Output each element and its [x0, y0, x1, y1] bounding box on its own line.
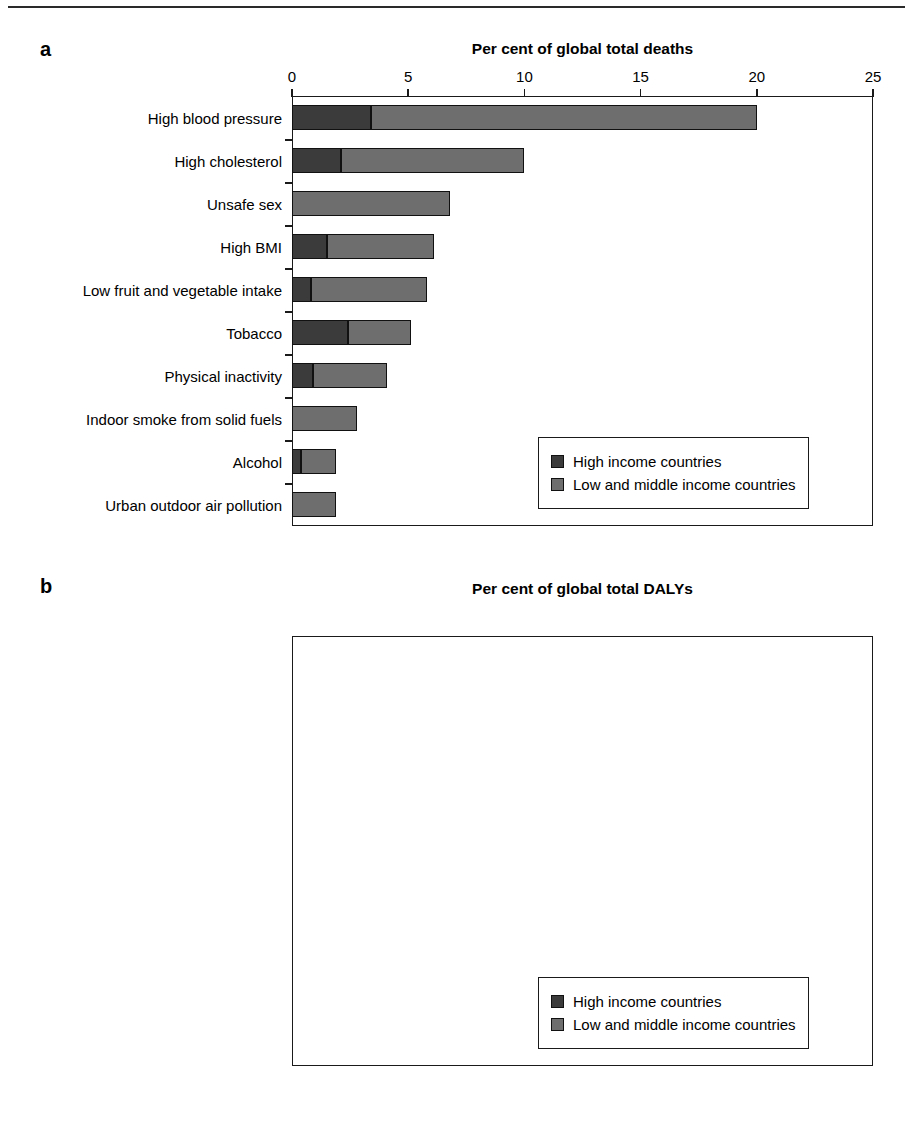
bar-segment	[292, 148, 341, 173]
panel-a-title: Per cent of global total deaths	[292, 40, 873, 58]
y-tick-mark	[285, 311, 293, 313]
x-tick-label: 5	[404, 68, 412, 85]
x-tick-mark	[872, 89, 874, 97]
legend-item: Low and middle income countries	[551, 1016, 796, 1033]
legend-item: High income countries	[551, 993, 796, 1010]
x-tick-label: 0	[288, 68, 296, 85]
category-label: Tobacco	[20, 324, 282, 341]
category-label: High cholesterol	[20, 152, 282, 169]
x-tick-mark	[640, 89, 642, 97]
category-label: Alcohol	[20, 453, 282, 470]
y-tick-mark	[285, 268, 293, 270]
panel-b-letter: b	[40, 575, 52, 598]
figure-page: a Per cent of global total deaths 051015…	[0, 0, 913, 1130]
bar-segment	[327, 234, 434, 259]
x-tick-label: 25	[865, 68, 882, 85]
bar-segment	[371, 105, 757, 130]
panel-b: b Per cent of global total DALYs 0123456…	[0, 565, 913, 1130]
panel-b-title: Per cent of global total DALYs	[292, 580, 873, 598]
y-tick-mark	[285, 139, 293, 141]
bar-segment	[311, 277, 427, 302]
category-label: High BMI	[20, 238, 282, 255]
panel-a-legend: High income countriesLow and middle inco…	[538, 437, 809, 509]
x-tick-mark	[291, 89, 293, 97]
bar-segment	[292, 363, 313, 388]
bar-segment	[292, 449, 301, 474]
bar-segment	[292, 234, 327, 259]
y-tick-mark	[285, 182, 293, 184]
y-tick-mark	[285, 354, 293, 356]
bar-segment	[341, 148, 525, 173]
bar-segment	[292, 320, 348, 345]
bar-segment	[292, 105, 371, 130]
legend-label: Low and middle income countries	[573, 476, 796, 493]
category-label: Unsafe sex	[20, 195, 282, 212]
x-tick-label: 15	[632, 68, 649, 85]
bar-segment	[313, 363, 387, 388]
panel-a-letter: a	[40, 38, 51, 61]
bar-segment	[292, 277, 311, 302]
y-tick-mark	[285, 440, 293, 442]
panel-a: a Per cent of global total deaths 051015…	[0, 0, 913, 565]
bar-segment	[301, 449, 336, 474]
category-label: Indoor smoke from solid fuels	[20, 410, 282, 427]
legend-swatch-icon	[551, 455, 564, 468]
legend-swatch-icon	[551, 1018, 564, 1031]
y-tick-mark	[285, 397, 293, 399]
legend-label: High income countries	[573, 993, 721, 1010]
legend-item: High income countries	[551, 453, 796, 470]
bar-segment	[292, 492, 336, 517]
legend-item: Low and middle income countries	[551, 476, 796, 493]
bar-segment	[348, 320, 411, 345]
category-label: Low fruit and vegetable intake	[20, 281, 282, 298]
legend-label: High income countries	[573, 453, 721, 470]
legend-label: Low and middle income countries	[573, 1016, 796, 1033]
bar-segment	[292, 191, 450, 216]
x-tick-label: 10	[516, 68, 533, 85]
y-tick-mark	[285, 225, 293, 227]
x-tick-mark	[756, 89, 758, 97]
category-label: Urban outdoor air pollution	[20, 496, 282, 513]
x-tick-mark	[407, 89, 409, 97]
x-tick-label: 20	[748, 68, 765, 85]
panel-b-legend: High income countriesLow and middle inco…	[538, 977, 809, 1049]
bar-segment	[292, 406, 357, 431]
y-tick-mark	[285, 483, 293, 485]
category-label: Physical inactivity	[20, 367, 282, 384]
legend-swatch-icon	[551, 995, 564, 1008]
legend-swatch-icon	[551, 478, 564, 491]
category-label: High blood pressure	[20, 109, 282, 126]
x-tick-mark	[524, 89, 526, 97]
